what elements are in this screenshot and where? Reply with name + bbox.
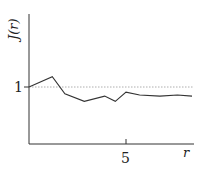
- y-tick-label: 1: [14, 79, 23, 95]
- data-series-line: [29, 77, 192, 102]
- x-axis-label: r: [183, 145, 190, 160]
- y-axis-label: J(r): [6, 18, 21, 43]
- line-chart: 1 5 r J(r): [0, 0, 199, 178]
- x-tick-label: 5: [121, 150, 130, 166]
